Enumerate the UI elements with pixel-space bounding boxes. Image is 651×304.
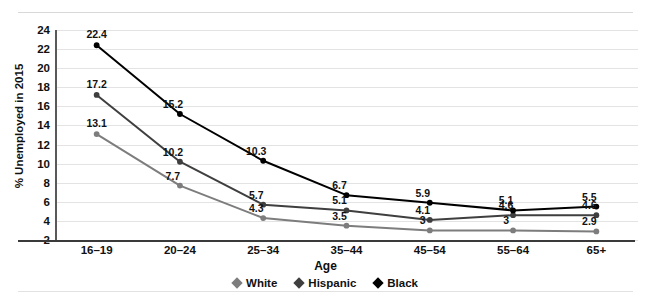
data-point-label: 10.2 <box>163 146 183 158</box>
data-point-label: 4.1 <box>415 204 430 216</box>
data-point <box>344 223 350 229</box>
data-point-label: 3.5 <box>332 210 347 222</box>
data-point-label: 17.2 <box>86 78 106 90</box>
data-point-label: 15.2 <box>163 98 183 110</box>
data-point <box>260 158 266 164</box>
data-point-label: 13.1 <box>86 117 106 129</box>
plot-area: 13.17.74.33.5332.917.210.25.75.14.14.64.… <box>55 30 638 240</box>
data-point <box>427 228 433 234</box>
legend-label: Hispanic <box>308 277 356 289</box>
data-point-label: 5.5 <box>582 191 597 203</box>
x-tick-label: 35–44 <box>307 244 387 256</box>
legend-item-black[interactable]: Black <box>374 277 418 289</box>
legend-diamond-icon <box>373 277 384 288</box>
data-point-label: 3 <box>420 214 426 226</box>
data-point <box>94 92 100 98</box>
data-point-label: 5.9 <box>415 187 430 199</box>
data-point-label: 6.7 <box>332 179 347 191</box>
data-point <box>510 228 516 234</box>
legend-label: White <box>246 277 277 289</box>
data-point <box>94 42 100 48</box>
y-tick-label: 4 <box>8 215 50 227</box>
chart-legend: WhiteHispanicBlack <box>0 277 651 289</box>
y-tick-label: 24 <box>8 24 50 36</box>
x-tick-label: 65+ <box>556 244 636 256</box>
data-point <box>177 111 183 117</box>
legend-diamond-icon <box>294 277 305 288</box>
data-point-label: 22.4 <box>86 28 106 40</box>
y-axis-label: % Unemployed in 2015 <box>13 46 25 206</box>
x-tick-label: 55–64 <box>473 244 553 256</box>
x-tick-label: 45–54 <box>390 244 470 256</box>
x-tick-label: 25–34 <box>223 244 303 256</box>
data-point <box>427 217 433 223</box>
legend-diamond-icon <box>231 277 242 288</box>
data-point-label: 7.7 <box>166 170 181 182</box>
x-axis-label: Age <box>0 259 651 273</box>
y-axis-line <box>55 30 57 241</box>
data-point <box>177 183 183 189</box>
data-point <box>260 215 266 221</box>
data-point-label: 3 <box>503 214 509 226</box>
x-tick-label: 20–24 <box>140 244 220 256</box>
legend-item-hispanic[interactable]: Hispanic <box>295 277 356 289</box>
data-point-label: 4.3 <box>249 202 264 214</box>
data-point <box>94 131 100 137</box>
data-point-label: 5.7 <box>249 189 264 201</box>
data-point <box>593 229 599 235</box>
x-tick-label: 16–19 <box>57 244 137 256</box>
legend-item-white[interactable]: White <box>233 277 277 289</box>
data-point-label: 5.1 <box>499 194 514 206</box>
line-chart: 24681012141618202224 % Unemployed in 201… <box>0 0 651 304</box>
data-point-label: 10.3 <box>246 145 266 157</box>
chart-figure: 24681012141618202224 % Unemployed in 201… <box>0 0 651 304</box>
data-point <box>177 159 183 165</box>
x-axis-ticks: 16–1920–2425–3435–4445–5455–6465+ <box>55 244 638 260</box>
legend-label: Black <box>387 277 418 289</box>
series-lines <box>55 30 638 240</box>
x-axis-line <box>18 240 635 242</box>
data-point-label: 5.1 <box>332 194 347 206</box>
data-point-label: 2.9 <box>582 215 597 227</box>
